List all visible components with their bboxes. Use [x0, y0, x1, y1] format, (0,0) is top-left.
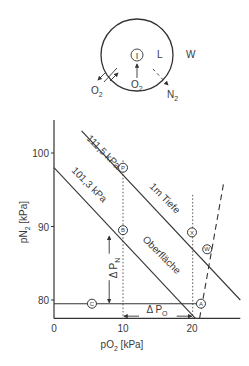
x-tick-label: 20	[186, 323, 198, 334]
point-label-c: C	[90, 301, 95, 307]
y-tick-label: 90	[38, 222, 50, 233]
point-label-p: P	[121, 165, 125, 171]
y-axis-title: pN2 [kPa]	[18, 201, 31, 243]
o2-out-arrow	[98, 72, 106, 80]
bubble-schematic: I L W O2 O2 N2	[91, 19, 196, 102]
point-label-b: B	[121, 227, 125, 233]
delta-pn-label: Δ PN	[108, 258, 121, 279]
isobar-line-101-3-kpa	[54, 168, 195, 319]
o2-uptake-label: O2	[131, 79, 143, 92]
region-l-label: L	[157, 49, 163, 60]
o2-exchange-label: O2	[91, 85, 103, 98]
line-label-111-5-kpa: 111,5 kPa	[85, 133, 124, 172]
y-tick-label: 100	[32, 148, 49, 159]
line-note-1m-tiefe: 1m Tiefe	[148, 181, 183, 216]
inner-cell-label: I	[136, 51, 139, 61]
line-label-101-3-kpa: 101,3 kPa	[70, 165, 110, 205]
x-axis-title: pO2 [kPa]	[101, 339, 144, 352]
delta-po-label: Δ PO	[146, 304, 168, 317]
x-tick-label: 10	[117, 323, 129, 334]
region-w-label: W	[186, 49, 196, 60]
point-label-a: A	[199, 301, 203, 307]
line-note-oberflaeche: Oberfläche	[141, 234, 184, 277]
x-tick-label: 0	[51, 323, 57, 334]
diagram-canvas: I L W O2 O2 N2 809010001020 CABPXW pO2 […	[0, 0, 249, 366]
n2-out-label: N2	[167, 89, 178, 102]
partial-pressure-chart: 809010001020 CABPXW pO2 [kPa] pN2 [kPa] …	[18, 120, 240, 352]
point-label-x: X	[190, 230, 194, 236]
point-label-w: W	[204, 246, 210, 252]
y-tick-label: 80	[38, 295, 50, 306]
